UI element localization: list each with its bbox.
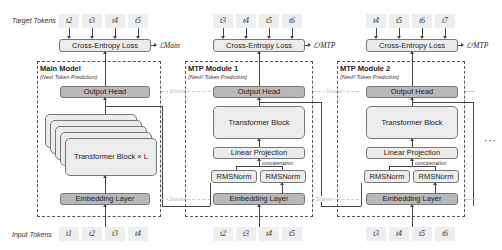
main-transformer-block-xL: Transformer Block × L <box>65 138 157 176</box>
main-target-token-1: t2 <box>59 14 79 28</box>
mtp2-input-token-1: t3 <box>366 227 386 241</box>
main-input-token-3: t3 <box>105 227 125 241</box>
main-loss-symbol: ℒMain <box>159 41 180 50</box>
target-tokens-label: Target Tokens <box>12 17 56 24</box>
main-target-token-3: t4 <box>105 14 125 28</box>
mtp2-target-token-2: t5 <box>389 14 409 28</box>
main-model-title: Main Model <box>40 64 81 73</box>
input-tokens-label: Input Tokens <box>12 231 52 238</box>
mtp1-input-token-1: t2 <box>213 227 233 241</box>
mtp2-loss-symbol: ℒ²MTP <box>466 41 488 50</box>
mtp1-subtitle: (Next² Token Prediction) <box>188 74 247 80</box>
mtp1-title: MTP Module 1 <box>188 64 238 73</box>
mtp1-rmsnorm-hidden: RMSNorm <box>211 170 257 183</box>
mtp1-input-token-2: t3 <box>236 227 256 241</box>
main-target-token-2: t3 <box>82 14 102 28</box>
shared-label-embed-2: Shared <box>315 196 333 202</box>
mtp1-target-token-3: t5 <box>259 14 279 28</box>
mtp1-input-token-3: t4 <box>259 227 279 241</box>
main-input-token-2: t2 <box>82 227 102 241</box>
ellipsis-more-modules: ··· <box>484 135 497 146</box>
main-target-token-4: t5 <box>128 14 148 28</box>
mtp1-target-token-4: t6 <box>282 14 302 28</box>
main-input-token-1: t1 <box>59 227 79 241</box>
mtp2-subtitle: (Next³ Token Prediction) <box>340 74 399 80</box>
mtp2-target-token-3: t6 <box>412 14 432 28</box>
mtp2-input-token-3: t5 <box>412 227 432 241</box>
mtp2-input-token-2: t4 <box>389 227 409 241</box>
mtp2-target-token-4: t7 <box>435 14 455 28</box>
mtp1-target-token-2: t4 <box>236 14 256 28</box>
main-input-token-4: t4 <box>128 227 148 241</box>
mtp2-rmsnorm-hidden: RMSNorm <box>364 170 410 183</box>
cropped-text-line <box>0 0 210 6</box>
mtp1-input-token-4: t5 <box>282 227 302 241</box>
main-model-subtitle: (Next Token Prediction) <box>40 74 97 80</box>
shared-label-output-1: Shared <box>168 88 186 94</box>
mtp1-loss-symbol: ℒ¹MTP <box>313 41 335 50</box>
shared-label-embed-1: Shared <box>168 196 186 202</box>
mtp2-target-token-1: t4 <box>366 14 386 28</box>
mtp1-target-token-1: t3 <box>213 14 233 28</box>
mtp2-title: MTP Module 2 <box>340 64 390 73</box>
mtp2-input-token-4: t6 <box>435 227 455 241</box>
mtp2-transformer-block: Transformer Block <box>366 106 458 139</box>
mtp1-transformer-block: Transformer Block <box>213 106 305 139</box>
